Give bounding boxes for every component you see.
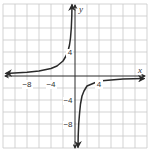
y-tick-label: −8 bbox=[63, 120, 73, 129]
x-tick-label: −4 bbox=[46, 80, 56, 89]
x-tick-label: 4 bbox=[97, 80, 102, 89]
y-tick-label: −4 bbox=[63, 96, 73, 105]
x-tick-label: −8 bbox=[22, 80, 32, 89]
function-graph: −8 −4 4 4 −4 −8 x y bbox=[0, 0, 148, 152]
y-axis-label: y bbox=[78, 4, 83, 14]
y-tick-label: 4 bbox=[68, 48, 73, 57]
x-axis-label: x bbox=[137, 65, 142, 75]
